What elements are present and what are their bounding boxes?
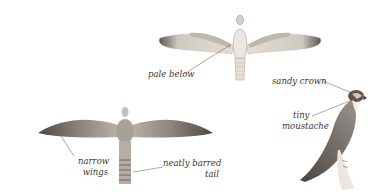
perched-bird [300, 90, 367, 190]
label-tail: tail [163, 169, 219, 179]
label-narrow: narrow [78, 156, 108, 166]
label-moustache: moustache [282, 121, 329, 131]
leader-lines [57, 45, 352, 172]
label-wings: wings [78, 167, 108, 177]
label-neatly-barred: neatly barred [163, 158, 219, 168]
leader-sandy-crown [323, 81, 352, 93]
label-tiny: tiny [293, 110, 309, 120]
label-pale-below: pale below [148, 69, 195, 79]
leader-neatly-barred [133, 167, 163, 172]
label-sandy-crown: sandy crown [272, 76, 327, 86]
falcon-illustration: pale below sandy crown tiny moustache na… [0, 0, 384, 195]
